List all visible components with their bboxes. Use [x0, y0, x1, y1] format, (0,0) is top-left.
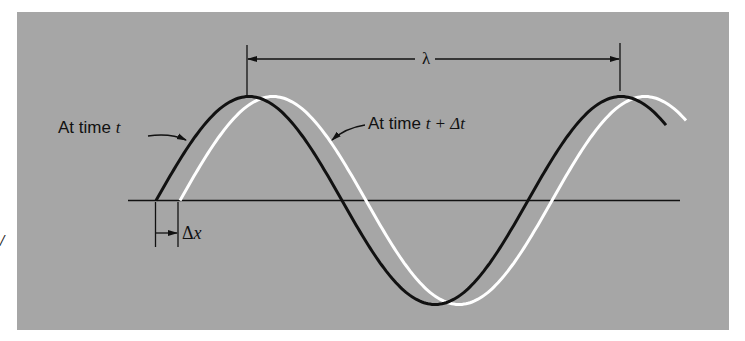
label-t-prefix: At time: [58, 118, 111, 137]
label-t-pointer-arrow: [148, 135, 186, 140]
wavelength-label: λ: [420, 50, 432, 67]
label-tdt-prefix: At time: [368, 114, 421, 133]
delta-x-var: x: [194, 223, 202, 243]
delta-x-label: Δx: [182, 224, 202, 242]
traveling-wave-figure: At time t At time t + Δt λ Δx /: [0, 0, 745, 341]
delta-symbol: Δ: [182, 223, 194, 243]
label-t-var: t: [116, 118, 121, 137]
label-at-time-t-plus-dt: At time t + Δt: [368, 115, 465, 132]
wave-diagram-svg: [0, 0, 745, 341]
label-at-time-t: At time t: [58, 119, 120, 136]
label-tdt-var: t + Δt: [426, 114, 465, 133]
stray-mark: /: [0, 232, 4, 250]
label-t-plus-dt-pointer-arrow: [332, 125, 365, 140]
